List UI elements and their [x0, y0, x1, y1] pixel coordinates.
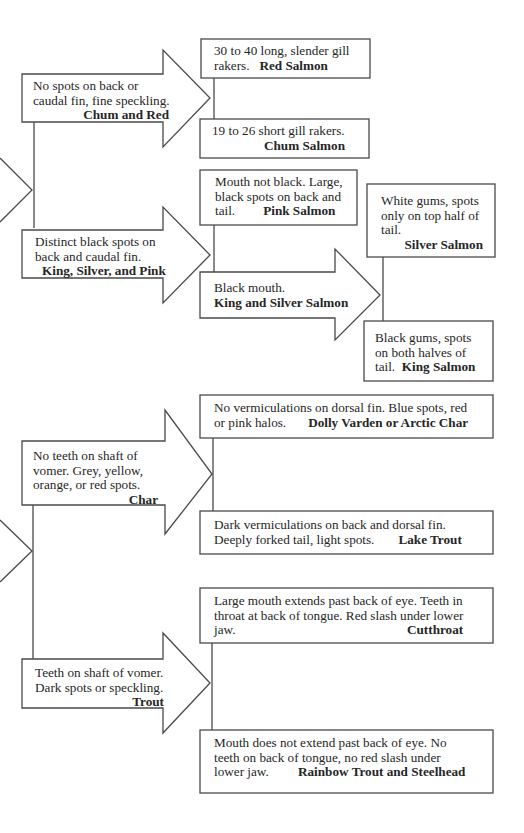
key-line: back and caudal fin. [35, 250, 175, 265]
text-silver-salmon: White gums, spots only on top half of ta… [381, 194, 493, 252]
key-line: White gums, spots [381, 194, 493, 209]
key-line: jaw. [214, 622, 235, 637]
key-result: Chum and Red [83, 107, 169, 122]
incoming-arrow-salmon [0, 158, 32, 222]
key-line: Black mouth. [214, 281, 374, 296]
key-line: Dark vermiculations on back and dorsal f… [214, 518, 494, 533]
key-result: Char [129, 492, 158, 507]
key-line: Deeply forked tail, light spots. [214, 532, 374, 547]
incoming-arrow-char-trout [0, 520, 32, 582]
key-line: Large mouth extends past back of eye. Te… [214, 594, 494, 609]
text-king-silver-pink: Distinct black spots on back and caudal … [35, 235, 175, 279]
text-chum-red: No spots on back or caudal fin, fine spe… [33, 79, 173, 123]
key-line: Teeth on shaft of vomer. [35, 666, 175, 681]
key-line: Distinct black spots on [35, 235, 175, 250]
key-result: Pink Salmon [263, 203, 335, 218]
key-line: orange, or red spots. [33, 478, 173, 493]
key-line: lower jaw. [214, 764, 269, 779]
key-line: only on top half of [381, 209, 493, 224]
key-line: tail. [381, 223, 493, 238]
key-line: Black gums, spots [375, 331, 493, 346]
text-lake-trout: Dark vermiculations on back and dorsal f… [214, 518, 494, 547]
text-char: No teeth on shaft of vomer. Grey, yellow… [33, 449, 173, 507]
key-result: Red Salmon [259, 58, 328, 73]
text-red-salmon: 30 to 40 long, slender gill rakers. Red … [214, 44, 364, 73]
key-line: Dark spots or speckling. [35, 681, 175, 696]
key-result: Dolly Varden or Arctic Char [308, 415, 468, 430]
key-line: teeth on back of tongue, no red slash un… [214, 751, 494, 766]
key-line: 30 to 40 long, slender gill [214, 44, 364, 59]
text-cutthroat: Large mouth extends past back of eye. Te… [214, 594, 494, 638]
key-result: King Salmon [402, 359, 476, 374]
key-line: 19 to 26 short gill rakers. [212, 124, 362, 139]
text-trout: Teeth on shaft of vomer. Dark spots or s… [35, 666, 175, 710]
text-king-salmon: Black gums, spots on both halves of tail… [375, 331, 493, 375]
key-line: vomer. Grey, yellow, [33, 464, 173, 479]
key-line: black spots on back and [215, 190, 355, 205]
key-result: King, Silver, and Pink [42, 263, 166, 278]
key-line: Mouth not black. Large, [215, 175, 355, 190]
key-result: Silver Salmon [404, 237, 483, 252]
text-pink-salmon: Mouth not black. Large, black spots on b… [215, 175, 355, 219]
key-line: Mouth does not extend past back of eye. … [214, 736, 494, 751]
key-line: rakers. [214, 58, 250, 73]
key-result: Chum Salmon [264, 138, 345, 153]
text-dolly-varden: No vermiculations on dorsal fin. Blue sp… [214, 401, 494, 430]
key-line: No vermiculations on dorsal fin. Blue sp… [214, 401, 494, 416]
key-result: Lake Trout [398, 532, 461, 547]
text-chum-salmon: 19 to 26 short gill rakers. Chum Salmon [212, 124, 362, 153]
key-line: throat at back of tongue. Red slash unde… [214, 609, 494, 624]
key-result: Rainbow Trout and Steelhead [298, 765, 465, 780]
key-line: caudal fin, fine speckling. [33, 94, 173, 109]
key-line: tail. [375, 359, 395, 374]
key-result: Trout [132, 694, 164, 709]
key-line: tail. [215, 203, 235, 218]
text-king-silver: Black mouth. King and Silver Salmon [214, 281, 374, 310]
key-result: King and Silver Salmon [214, 295, 348, 310]
text-rainbow-trout: Mouth does not extend past back of eye. … [214, 736, 494, 780]
key-result: Cutthroat [407, 623, 463, 638]
key-line: No teeth on shaft of [33, 449, 173, 464]
key-line: No spots on back or [33, 79, 173, 94]
key-line: or pink halos. [214, 415, 286, 430]
key-line: on both halves of [375, 346, 493, 361]
